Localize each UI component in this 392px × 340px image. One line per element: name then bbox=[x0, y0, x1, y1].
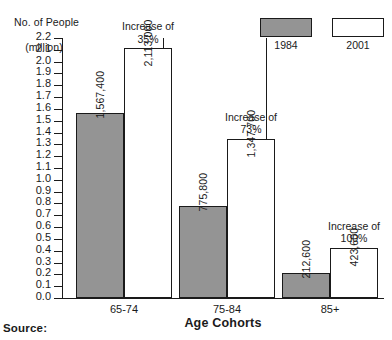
y-axis-tick-mark bbox=[54, 156, 62, 157]
y-axis-tick-mark bbox=[54, 192, 62, 193]
y-axis-tick-label: 0.0 bbox=[36, 291, 51, 302]
legend-swatch-gray bbox=[260, 18, 312, 37]
source-label: Source: bbox=[3, 322, 47, 334]
value-label-1984-65-74: 1,567,400 bbox=[95, 71, 106, 119]
y-axis-tick-mark bbox=[54, 274, 62, 275]
y-axis-tick-mark bbox=[54, 286, 62, 287]
y-axis-tick-label: 0.9 bbox=[36, 185, 51, 196]
legend-label-2001: 2001 bbox=[332, 39, 384, 51]
plot-area bbox=[62, 38, 384, 298]
y-axis-tick-label: 0.2 bbox=[36, 267, 51, 278]
increase-annotation-85+: Increase of100% bbox=[319, 220, 389, 245]
y-axis-title-line1: No. of People bbox=[14, 16, 79, 28]
x-axis-label-65-74: 65-74 bbox=[84, 303, 164, 315]
x-axis-label-75-84: 75-84 bbox=[187, 303, 267, 315]
y-axis-tick-label: 0.3 bbox=[36, 256, 51, 267]
increase-annotation-line2: 35% bbox=[137, 33, 158, 45]
y-axis-tick-label: 1.7 bbox=[36, 90, 51, 101]
y-axis-tick-mark bbox=[54, 109, 62, 110]
y-axis-tick-mark bbox=[54, 251, 62, 252]
y-axis-tick-label: 0.8 bbox=[36, 196, 51, 207]
y-axis-tick-label: 0.6 bbox=[36, 220, 51, 231]
bar-chart: No. of People (million) 2.22.12.01.91.81… bbox=[0, 0, 392, 340]
legend-item-1984: 1984 bbox=[260, 18, 314, 51]
y-axis-tick-mark bbox=[54, 85, 62, 86]
y-axis-tick-label: 1.4 bbox=[36, 126, 51, 137]
legend: 1984 2001 bbox=[260, 18, 386, 56]
y-axis-tick-mark bbox=[54, 239, 62, 240]
y-axis-tick-label: 0.5 bbox=[36, 232, 51, 243]
increase-annotation-line2: 100% bbox=[341, 232, 368, 244]
y-axis-tick-label: 0.1 bbox=[36, 279, 51, 290]
legend-swatch-white bbox=[332, 18, 384, 37]
increase-annotation-line2: 73% bbox=[240, 123, 261, 135]
y-axis-tick-mark bbox=[54, 121, 62, 122]
bar-2001-65-74 bbox=[124, 48, 172, 298]
y-axis-tick-label: 1.6 bbox=[36, 102, 51, 113]
y-axis-tick-mark bbox=[54, 38, 62, 39]
y-axis-tick-label: 0.4 bbox=[36, 244, 51, 255]
y-axis-tick-mark bbox=[54, 73, 62, 74]
y-axis-tick-mark bbox=[54, 144, 62, 145]
value-label-1984-85+: 212,600 bbox=[301, 240, 312, 279]
y-axis-tick-label: 1.2 bbox=[36, 149, 51, 160]
x-axis-title: Age Cohorts bbox=[62, 316, 384, 330]
y-axis-tick-mark bbox=[54, 215, 62, 216]
y-axis-tick-mark bbox=[54, 50, 62, 51]
y-axis-tick-mark bbox=[54, 227, 62, 228]
y-axis-tick-label: 1.9 bbox=[36, 66, 51, 77]
bar-2001-75-84 bbox=[227, 139, 275, 298]
value-label-1984-75-84: 775,800 bbox=[198, 173, 209, 212]
y-axis-tick-mark bbox=[54, 133, 62, 134]
y-axis-tick-label: 1.3 bbox=[36, 137, 51, 148]
y-axis-tick-mark bbox=[54, 298, 62, 299]
y-axis-tick-label: 2.2 bbox=[36, 31, 51, 42]
y-axis-tick-mark bbox=[54, 263, 62, 264]
legend-item-2001: 2001 bbox=[332, 18, 386, 51]
y-axis-tick-label: 1.0 bbox=[36, 173, 51, 184]
increase-annotation-line1: Increase of bbox=[122, 20, 174, 32]
legend-label-1984: 1984 bbox=[260, 39, 312, 51]
y-axis-tick-label: 1.8 bbox=[36, 78, 51, 89]
y-axis-tick-mark bbox=[54, 62, 62, 63]
increase-annotation-65-74: Increase of35% bbox=[113, 20, 183, 45]
increase-annotation-line1: Increase of bbox=[225, 111, 277, 123]
y-axis-tick-label: 0.7 bbox=[36, 208, 51, 219]
y-axis-tick-mark bbox=[54, 180, 62, 181]
y-axis-tick-label: 1.5 bbox=[36, 114, 51, 125]
increase-annotation-line1: Increase of bbox=[328, 220, 380, 232]
y-axis-tick-label: 2.0 bbox=[36, 55, 51, 66]
y-axis-tick-mark bbox=[54, 97, 62, 98]
y-axis-tick-mark bbox=[54, 203, 62, 204]
increase-annotation-75-84: Increase of73% bbox=[216, 111, 286, 136]
x-axis-label-85+: 85+ bbox=[290, 303, 370, 315]
bar-1984-75-84 bbox=[179, 206, 227, 298]
x-axis-line bbox=[62, 298, 384, 299]
y-axis-tick-label: 1.1 bbox=[36, 161, 51, 172]
bar-1984-65-74 bbox=[76, 113, 124, 298]
y-axis-tick-label: 2.1 bbox=[36, 43, 51, 54]
y-axis-tick-mark bbox=[54, 168, 62, 169]
